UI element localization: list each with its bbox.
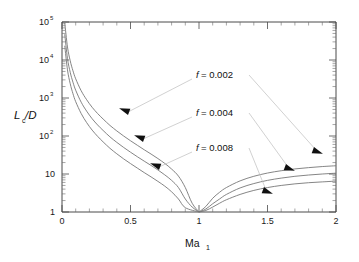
x-tick-label: 0.5	[124, 216, 137, 226]
lc-over-d-vs-mach-chart: 00.511.52 110102103104105 L c /D Ma 1 f …	[0, 0, 359, 262]
svg-text:10: 10	[45, 169, 55, 179]
annotation-label-2: f = 0.008	[196, 142, 233, 153]
x-tick-label: 0	[59, 216, 64, 226]
svg-text:10: 10	[39, 17, 49, 27]
svg-text:10: 10	[39, 131, 49, 141]
figure-container: 00.511.52 110102103104105 L c /D Ma 1 f …	[0, 0, 359, 262]
x-axis-title-main: Ma	[185, 237, 200, 249]
x-axis-title-sub: 1	[206, 244, 210, 251]
svg-text:= 0.002: = 0.002	[201, 69, 233, 80]
y-tick-label: 10	[45, 169, 55, 179]
svg-text:10: 10	[39, 55, 49, 65]
annotation-label-1: f = 0.004	[196, 107, 233, 118]
svg-text:10: 10	[39, 93, 49, 103]
y-axis-title-tail: /D	[24, 109, 37, 121]
y-axis-title-main: L	[14, 109, 20, 121]
x-tick-label: 2	[333, 216, 338, 226]
x-tick-label: 1.5	[261, 216, 274, 226]
chart-background	[0, 0, 359, 262]
svg-text:= 0.008: = 0.008	[201, 142, 233, 153]
y-tick-label: 1	[50, 207, 55, 217]
svg-text:= 0.004: = 0.004	[201, 107, 233, 118]
svg-text:1: 1	[50, 207, 55, 217]
x-tick-label: 1	[196, 216, 201, 226]
annotation-label-0: f = 0.002	[196, 69, 233, 80]
